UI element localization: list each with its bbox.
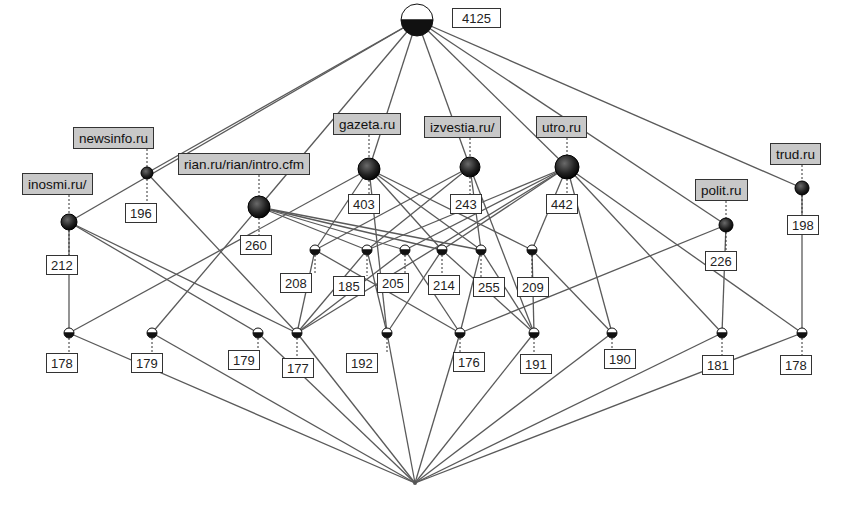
attribute-node-izvestia[interactable] bbox=[460, 157, 480, 177]
concept-node-m255[interactable] bbox=[476, 245, 486, 255]
concept-node-b191[interactable] bbox=[529, 328, 539, 338]
concept-node-b192[interactable] bbox=[382, 328, 392, 338]
concept-node-b178a[interactable] bbox=[64, 328, 74, 338]
count-label-trud: 198 bbox=[787, 215, 819, 235]
count-label-m255: 255 bbox=[473, 277, 505, 297]
lattice-edge bbox=[405, 167, 567, 250]
count-label-izvestia: 243 bbox=[450, 194, 482, 214]
concept-node-m205[interactable] bbox=[400, 245, 410, 255]
attribute-node-inosmi[interactable] bbox=[61, 214, 77, 230]
attribute-label-rian: rian.ru/rian/intro.cfm bbox=[178, 153, 310, 175]
attribute-node-utro[interactable] bbox=[555, 155, 579, 179]
attribute-label-polit: polit.ru bbox=[695, 179, 748, 201]
count-label-b177: 177 bbox=[282, 358, 314, 378]
edges-layer bbox=[69, 20, 802, 483]
concept-node-m214[interactable] bbox=[437, 245, 447, 255]
attribute-node-polit[interactable] bbox=[719, 218, 733, 232]
attribute-node-newsinfo[interactable] bbox=[141, 167, 153, 179]
count-label-gazeta: 403 bbox=[348, 194, 380, 214]
count-label-b178b: 178 bbox=[780, 355, 812, 375]
count-label-b179b: 179 bbox=[228, 350, 260, 370]
concept-node-b177[interactable] bbox=[292, 328, 302, 338]
concept-node-m185[interactable] bbox=[362, 245, 372, 255]
count-label-inosmi: 212 bbox=[46, 255, 78, 275]
count-label-m185: 185 bbox=[333, 276, 365, 296]
count-label-polit: 226 bbox=[705, 251, 737, 271]
lattice-edge bbox=[369, 169, 442, 250]
bottom-concept-node[interactable] bbox=[413, 481, 417, 485]
count-label-m214: 214 bbox=[428, 275, 460, 295]
count-label-rian: 260 bbox=[240, 235, 272, 255]
count-label-b179a: 179 bbox=[131, 353, 163, 373]
concept-node-b181[interactable] bbox=[717, 328, 727, 338]
lattice-edge bbox=[147, 20, 417, 173]
attribute-label-izvestia: izvestia.ru/ bbox=[424, 116, 501, 138]
count-label-m208: 208 bbox=[280, 273, 312, 293]
count-label-b192: 192 bbox=[346, 353, 378, 373]
attribute-label-trud: trud.ru bbox=[770, 143, 821, 165]
lattice-edge bbox=[147, 173, 297, 333]
concept-node-b178b[interactable] bbox=[797, 328, 807, 338]
lattice-edge bbox=[567, 167, 802, 333]
count-label-utro: 442 bbox=[546, 194, 578, 214]
count-label-m209: 209 bbox=[517, 277, 549, 297]
nodes-layer bbox=[61, 4, 809, 485]
count-label-b181: 181 bbox=[702, 355, 734, 375]
count-label-b191: 191 bbox=[520, 354, 552, 374]
attribute-label-utro: utro.ru bbox=[536, 116, 587, 138]
lattice-edge bbox=[417, 20, 470, 167]
count-label-b190: 190 bbox=[604, 349, 636, 369]
attribute-label-gazeta: gazeta.ru bbox=[333, 113, 401, 135]
lattice-edge bbox=[369, 20, 417, 169]
attribute-label-newsinfo: newsinfo.ru bbox=[73, 127, 154, 149]
concept-node-b179a[interactable] bbox=[147, 328, 157, 338]
attribute-node-trud[interactable] bbox=[795, 181, 809, 195]
count-label-m205: 205 bbox=[377, 273, 409, 293]
count-label-newsinfo: 196 bbox=[125, 203, 157, 223]
concept-node-b190[interactable] bbox=[607, 328, 617, 338]
lattice-edge bbox=[415, 333, 612, 483]
lattice-edge bbox=[69, 222, 258, 333]
count-label-b178a: 178 bbox=[46, 353, 78, 373]
lattice-edge bbox=[315, 167, 470, 250]
concept-node-b179b[interactable] bbox=[253, 328, 263, 338]
attribute-node-gazeta[interactable] bbox=[358, 158, 380, 180]
count-label-b176: 176 bbox=[453, 352, 485, 372]
attribute-node-rian[interactable] bbox=[248, 196, 270, 218]
lattice-edge bbox=[69, 169, 369, 333]
concept-node-m209[interactable] bbox=[527, 245, 537, 255]
top-concept-node[interactable] bbox=[401, 4, 433, 36]
concept-node-m208[interactable] bbox=[310, 245, 320, 255]
concept-node-b176[interactable] bbox=[455, 328, 465, 338]
top-count-label: 4125 bbox=[452, 8, 501, 28]
lattice-edge bbox=[417, 20, 567, 167]
attribute-label-inosmi: inosmi.ru/ bbox=[22, 173, 93, 195]
